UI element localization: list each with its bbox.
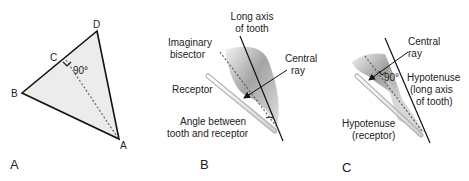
hyp-tooth-label-3: of tooth) [416, 96, 453, 107]
central-ray-label-2: ray [408, 48, 422, 59]
long-axis-label-1: Long axis [231, 11, 274, 22]
angle-arc-icon [266, 117, 273, 118]
bisecting-angle-diagram: D C B A 90° A Long axis of tooth Imagina… [0, 0, 469, 181]
panel-c-letter: C [342, 160, 351, 175]
hyp-tooth-label-2: (long axis [410, 84, 453, 95]
angle-label-2: tooth and receptor [167, 128, 249, 139]
point-a-label: A [120, 140, 127, 151]
point-c-label: C [50, 52, 57, 63]
panel-c: Central ray 90° Hypotenuse (long axis of… [342, 36, 461, 175]
hyp-tooth-label-1: Hypotenuse [407, 72, 461, 83]
panel-a-letter: A [10, 157, 19, 172]
angle-label: 90° [384, 72, 399, 83]
central-ray-label-1: Central [408, 36, 440, 47]
triangle [22, 31, 119, 139]
bisector-label-2: bisector [170, 49, 206, 60]
hyp-receptor-label-2: (receptor) [352, 130, 395, 141]
central-ray-label-2: ray [291, 65, 305, 76]
panel-b-letter: B [200, 157, 209, 172]
point-d-label: D [93, 19, 100, 30]
angle-label-1: Angle between [180, 116, 246, 127]
hyp-receptor-label-1: Hypotenuse [342, 118, 396, 129]
panel-a: D C B A 90° A [10, 19, 127, 172]
panel-b: Long axis of tooth Imaginary bisector Ce… [167, 11, 317, 172]
long-axis-label-2: of tooth [235, 23, 268, 34]
angle-label: 90° [73, 65, 88, 76]
central-ray-label-1: Central [285, 53, 317, 64]
bisector-label-1: Imaginary [168, 37, 212, 48]
point-b-label: B [11, 88, 18, 99]
receptor-label: Receptor [172, 84, 213, 95]
